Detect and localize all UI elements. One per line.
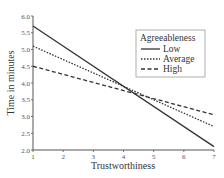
legend: Agreeableness Low Average High	[136, 30, 205, 77]
x-tick-label: 2	[61, 153, 65, 161]
line-chart: 2.02.53.03.54.04.55.05.56.01234567 Trust…	[0, 0, 224, 178]
legend-label-low: Low	[163, 44, 181, 54]
x-tick-label: 7	[212, 153, 216, 161]
legend-label-high: High	[163, 64, 182, 74]
y-tick-label: 5.0	[21, 46, 30, 54]
y-tick-label: 4.5	[21, 63, 30, 71]
y-tick-label: 5.5	[21, 29, 30, 37]
legend-title: Agreeableness	[140, 33, 196, 43]
y-tick-label: 6.0	[21, 13, 30, 21]
x-tick-label: 6	[182, 153, 186, 161]
y-axis-title: Time in minutes	[5, 50, 16, 115]
x-tick-label: 1	[31, 153, 35, 161]
y-tick-label: 4.0	[21, 80, 30, 88]
y-tick-label: 3.0	[21, 113, 30, 121]
x-axis-title: Trustworthiness	[91, 160, 155, 171]
y-tick-label: 3.5	[21, 96, 30, 104]
y-tick-label: 2.5	[21, 130, 30, 138]
legend-label-average: Average	[163, 54, 194, 64]
y-tick-label: 2.0	[21, 147, 30, 155]
